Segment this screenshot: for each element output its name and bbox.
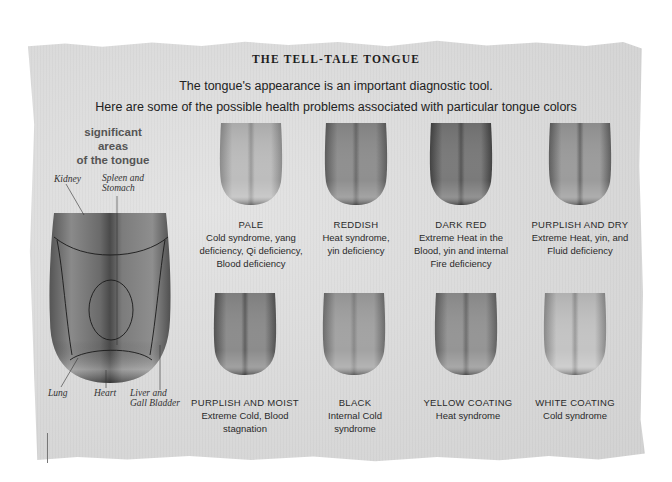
page-title: THE TELL-TALE TONGUE	[0, 53, 672, 65]
subtitle-line-2: Here are some of the possible health pro…	[0, 100, 672, 114]
tongue-desc-line: syndrome	[285, 422, 425, 435]
tongue-yellow-coating-image	[434, 292, 498, 376]
tongue-name: WHITE COATING	[505, 396, 645, 409]
tongue-purplish-dry-image	[548, 122, 612, 206]
tongue-white-coating-image	[543, 292, 607, 376]
tongue-black-image	[322, 292, 386, 376]
tongue-desc-line: Cold syndrome	[505, 409, 645, 422]
tongue-desc-line: Extreme Heat, yin, and	[510, 231, 650, 244]
tongue-dark-red-image	[429, 122, 493, 206]
tongue-purplish-moist-image	[213, 292, 277, 376]
tongue-pale-image	[219, 122, 283, 206]
tongue-desc-line: Blood deficiency	[181, 257, 321, 270]
tongue-label-white-coating: WHITE COATING Cold syndrome	[505, 396, 645, 422]
tongue-areas-heading: significant areas of the tongue	[68, 125, 158, 167]
subtitle-line-1: The tongue's appearance is an important …	[0, 79, 672, 93]
tongue-desc-line: Fluid deficiency	[510, 244, 650, 257]
margin-mark	[47, 433, 48, 463]
tongue-label-purplish-dry: PURPLISH AND DRY Extreme Heat, yin, and …	[510, 218, 650, 257]
tongue-areas-heading-line-1: significant areas	[68, 125, 158, 153]
tongue-areas-diagram	[40, 170, 200, 420]
tongue-name: PURPLISH AND DRY	[510, 218, 650, 231]
tongue-reddish-image	[324, 122, 388, 206]
tongue-desc-line: Fire deficiency	[391, 257, 531, 270]
tongue-areas-heading-line-2: of the tongue	[68, 153, 158, 167]
